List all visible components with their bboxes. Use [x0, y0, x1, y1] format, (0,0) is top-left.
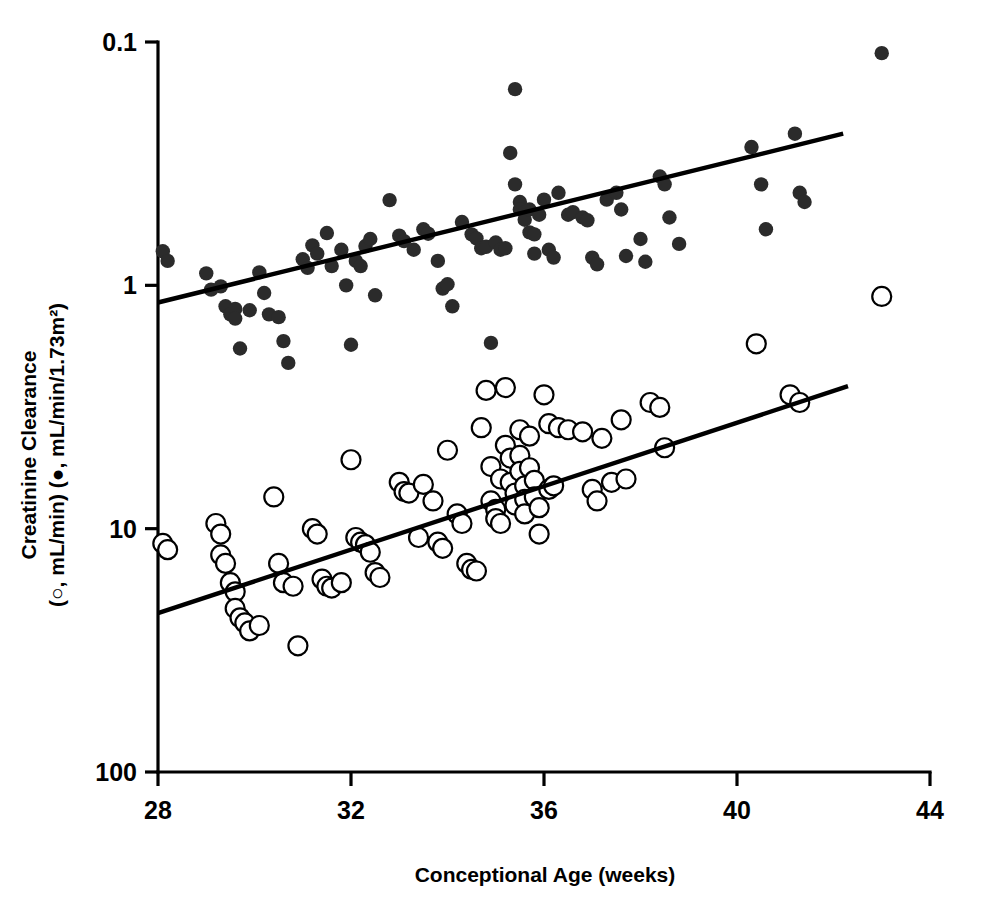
data-point-open [424, 491, 443, 510]
data-point-filled [344, 338, 358, 352]
data-point-open [288, 636, 307, 655]
data-point-filled [310, 246, 324, 260]
data-point-filled [633, 232, 647, 246]
axes-group [158, 42, 930, 772]
data-point-open [284, 577, 303, 596]
data-point-open [520, 427, 539, 446]
y-tick-label: 100 [95, 758, 137, 786]
x-tick-label: 32 [337, 796, 365, 824]
data-point-open [573, 422, 592, 441]
data-point-filled [199, 266, 213, 280]
data-point-filled [527, 246, 541, 260]
data-point-open [747, 334, 766, 353]
plot-canvas: 1001010.1 2832364044 Creatinine Clearanc… [0, 0, 982, 897]
x-tick-marks [158, 772, 930, 786]
data-point-filled [440, 277, 454, 291]
y-axis-title-line2: (○, mL/min) (●, mL/min/1.73m²) [45, 303, 68, 607]
data-point-filled [759, 222, 773, 236]
data-point-open [530, 498, 549, 517]
data-point-filled [788, 126, 802, 140]
y-tick-label: 0.1 [102, 28, 137, 56]
data-point-open [530, 525, 549, 544]
data-point-open [472, 418, 491, 437]
data-point-open [250, 616, 269, 635]
data-point-filled [619, 249, 633, 263]
data-point-open [872, 287, 891, 306]
x-tick-labels: 2832364044 [144, 796, 944, 824]
data-point-open [216, 554, 235, 573]
regression-lines [158, 134, 848, 613]
data-point-filled [320, 226, 334, 240]
data-point-filled [353, 259, 367, 273]
data-point-filled [546, 250, 560, 264]
data-point-filled [382, 193, 396, 207]
y-tick-marks [145, 42, 158, 772]
data-point-open [342, 450, 361, 469]
data-point-filled [276, 334, 290, 348]
x-tick-label: 44 [916, 796, 944, 824]
data-point-filled [551, 186, 565, 200]
data-point-open [308, 525, 327, 544]
data-point-open [438, 441, 457, 460]
data-point-filled [614, 202, 628, 216]
data-point-filled [590, 257, 604, 271]
data-point-open [588, 491, 607, 510]
data-point-filled [242, 303, 256, 317]
data-point-filled [744, 140, 758, 154]
data-point-filled [484, 336, 498, 350]
series-open-circles [153, 287, 891, 655]
data-point-filled [160, 254, 174, 268]
data-point-filled [431, 254, 445, 268]
data-point-filled [368, 288, 382, 302]
data-point-open [612, 410, 631, 429]
data-point-open [491, 514, 510, 533]
data-point-open [332, 573, 351, 592]
data-point-open [477, 381, 496, 400]
data-point-filled [875, 46, 889, 60]
regression-filled [158, 134, 843, 303]
data-point-filled [233, 341, 247, 355]
y-tick-label: 10 [109, 515, 137, 543]
x-axis-title: Conceptional Age (weeks) [415, 863, 676, 886]
data-point-filled [797, 195, 811, 209]
data-point-open [467, 561, 486, 580]
data-point-filled [580, 213, 594, 227]
data-point-filled [228, 311, 242, 325]
x-tick-label: 40 [723, 796, 751, 824]
data-point-filled [508, 82, 522, 96]
data-point-filled [754, 177, 768, 191]
x-tick-label: 28 [144, 796, 172, 824]
data-point-open [535, 385, 554, 404]
data-point-filled [498, 241, 512, 255]
series-filled-circles [156, 46, 889, 370]
data-point-filled [662, 210, 676, 224]
data-point-open [158, 540, 177, 559]
data-point-open [264, 487, 283, 506]
data-point-filled [508, 177, 522, 191]
data-point-filled [527, 227, 541, 241]
regression-open [158, 386, 848, 613]
data-point-filled [407, 243, 421, 257]
scatter-plot-figure: 1001010.1 2832364044 Creatinine Clearanc… [0, 0, 982, 897]
data-point-open [592, 429, 611, 448]
data-point-filled [363, 232, 377, 246]
data-point-filled [445, 299, 459, 313]
data-point-filled [281, 356, 295, 370]
data-point-filled [503, 146, 517, 160]
data-point-filled [672, 237, 686, 251]
data-point-open [496, 378, 515, 397]
data-point-open [211, 525, 230, 544]
data-point-filled [339, 278, 353, 292]
data-point-open [370, 568, 389, 587]
x-tick-label: 36 [530, 796, 558, 824]
data-point-open [650, 398, 669, 417]
y-tick-label: 1 [123, 271, 137, 299]
data-point-filled [257, 286, 271, 300]
y-tick-labels: 1001010.1 [95, 28, 137, 786]
data-point-filled [638, 255, 652, 269]
data-point-open [433, 539, 452, 558]
data-point-open [617, 469, 636, 488]
y-axis-title-line1: Creatinine Clearance [17, 351, 40, 560]
data-point-filled [271, 310, 285, 324]
y-axis-title: Creatinine Clearance (○, mL/min) (●, mL/… [17, 303, 68, 607]
